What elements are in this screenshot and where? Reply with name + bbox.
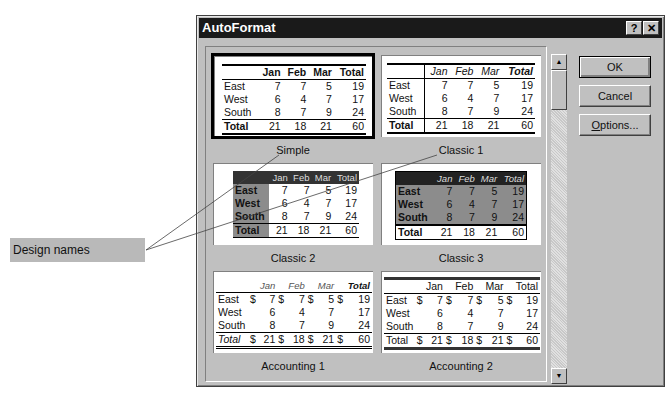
format-preview[interactable]: JanFebMarTotalEast$7$7$5$19West64717Sout…	[211, 269, 375, 355]
row-label: Total	[396, 225, 434, 240]
scroll-down-arrow-icon[interactable]: ▼	[551, 368, 567, 384]
currency-symbol: $	[307, 333, 315, 348]
row-label: West	[233, 197, 269, 210]
corner-cell	[222, 65, 258, 80]
currency-symbol: $	[249, 333, 257, 348]
currency-spacer	[336, 279, 344, 293]
currency-symbol	[475, 307, 483, 320]
column-header: Feb	[285, 279, 306, 293]
value-cell: 60	[334, 120, 366, 135]
value-cell: 21	[269, 224, 290, 238]
format-preview[interactable]: JanFebMarTotalEast77519West64717South879…	[211, 53, 375, 139]
value-cell: 7	[285, 293, 306, 307]
column-header: Mar	[315, 279, 336, 293]
value-cell: 7	[475, 92, 501, 105]
column-header: Mar	[311, 171, 333, 184]
row-label: East	[216, 293, 249, 307]
data-row: South87924	[216, 319, 372, 333]
format-name: Classic 3	[379, 252, 543, 264]
close-button[interactable]: ✕	[643, 21, 659, 35]
currency-symbol	[336, 319, 344, 333]
options-label: ptions...	[600, 119, 639, 131]
currency-symbol: $	[277, 333, 285, 348]
value-cell: 5	[477, 185, 499, 198]
data-row: East$7$7$5$19	[384, 294, 540, 308]
format-preview[interactable]: JanFebMarTotalEast$7$7$5$19West64717Sout…	[379, 269, 543, 355]
corner-cell	[396, 172, 434, 186]
value-cell: 21	[475, 119, 501, 134]
gallery-scrollbar[interactable]: ▲ ▼	[551, 54, 567, 384]
row-label: East	[387, 79, 424, 93]
header-row: JanFebMarTotal	[396, 172, 527, 186]
currency-symbol: $	[475, 334, 483, 349]
currency-symbol	[475, 320, 483, 334]
total-row: Total21182160	[396, 225, 527, 240]
column-header: Jan	[269, 171, 290, 184]
currency-symbol: $	[307, 293, 315, 307]
header-row: JanFebMarTotal	[233, 171, 359, 184]
value-cell: 60	[344, 333, 372, 348]
ok-button[interactable]: OK	[579, 56, 651, 78]
value-cell: 4	[450, 92, 476, 105]
value-cell: 5	[475, 79, 501, 93]
data-row: East77519	[222, 80, 366, 94]
value-cell: 9	[483, 320, 505, 334]
value-cell: 7	[454, 185, 476, 198]
row-label: West	[384, 307, 416, 320]
format-preview[interactable]: JanFebMarTotalEast77519West64717South879…	[379, 161, 543, 247]
value-cell: 6	[269, 197, 290, 210]
format-preview[interactable]: JanFebMarTotalEast77519West64717South879…	[211, 161, 375, 247]
value-cell: 17	[501, 92, 535, 105]
options-mnemonic: O	[591, 119, 600, 131]
currency-symbol: $	[416, 294, 424, 308]
value-cell: 24	[499, 211, 526, 225]
value-cell: 4	[290, 197, 312, 210]
column-header: Feb	[290, 171, 312, 184]
value-cell: 5	[311, 184, 333, 197]
value-cell: 18	[454, 225, 476, 240]
help-button[interactable]: ?	[626, 21, 642, 35]
autoformat-dialog: AutoFormat ? ✕ JanFebMarTotalEast77519We…	[196, 15, 665, 387]
format-name: Simple	[211, 144, 375, 156]
column-header: Feb	[454, 172, 476, 186]
data-row: West64717	[396, 198, 527, 211]
value-cell: 7	[453, 294, 475, 308]
row-label: West	[216, 306, 249, 319]
column-header: Feb	[450, 64, 476, 79]
column-header: Total	[501, 64, 535, 79]
row-label: South	[233, 210, 269, 224]
currency-spacer	[506, 279, 514, 294]
value-cell: 7	[454, 211, 476, 225]
column-header: Total	[333, 171, 359, 184]
value-cell: 6	[433, 198, 454, 211]
value-cell: 8	[433, 211, 454, 225]
currency-spacer	[307, 279, 315, 293]
scroll-up-arrow-icon[interactable]: ▲	[551, 54, 567, 70]
column-header: Feb	[283, 65, 309, 80]
currency-symbol: $	[475, 294, 483, 308]
value-cell: 21	[483, 334, 505, 349]
column-header: Jan	[433, 172, 454, 186]
value-cell: 9	[311, 210, 333, 224]
value-cell: 5	[483, 294, 505, 308]
format-name: Classic 2	[211, 252, 375, 264]
row-label: Total	[387, 119, 424, 134]
value-cell: 19	[344, 293, 372, 307]
currency-symbol: $	[249, 293, 257, 307]
column-header: Total	[344, 279, 372, 293]
currency-symbol	[506, 307, 514, 320]
value-cell: 7	[285, 319, 306, 333]
scrollbar-thumb[interactable]	[551, 70, 567, 110]
value-cell: 9	[475, 105, 501, 119]
currency-symbol	[307, 306, 315, 319]
value-cell: 19	[513, 294, 540, 308]
options-button[interactable]: Options...	[579, 114, 651, 136]
value-cell: 7	[424, 294, 445, 308]
column-header: Mar	[308, 65, 334, 80]
cancel-button[interactable]: Cancel	[579, 85, 651, 107]
value-cell: 17	[333, 197, 359, 210]
currency-symbol	[506, 320, 514, 334]
value-cell: 7	[315, 306, 336, 319]
format-preview[interactable]: JanFebMarTotalEast77519West64717South879…	[379, 53, 543, 139]
column-header: Feb	[453, 279, 475, 294]
